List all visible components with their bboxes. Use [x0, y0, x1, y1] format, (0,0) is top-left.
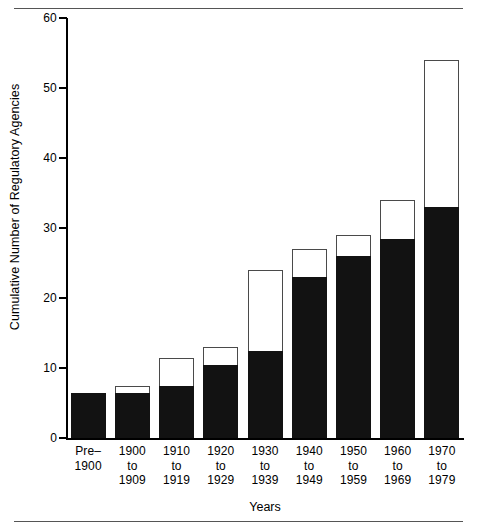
x-axis-title: Years: [66, 500, 464, 514]
y-tick-label-wrap: 10: [0, 362, 57, 374]
top-rule: [14, 8, 463, 9]
y-tick-label: 50: [17, 82, 57, 94]
y-tick-label: 60: [17, 12, 57, 24]
x-label-line: 1970: [416, 444, 468, 459]
y-axis-title: Cumulative Number of Regulatory Agencies: [8, 57, 22, 357]
bar-filled-segment: [203, 365, 238, 439]
bar-filled-segment: [115, 393, 150, 439]
x-label-line: 1979: [416, 473, 468, 488]
x-axis-line: [66, 438, 464, 440]
bar-filled-segment: [424, 207, 459, 438]
bottom-rule: [14, 521, 463, 522]
bar-filled-segment: [292, 277, 327, 438]
y-tick-label: 10: [17, 362, 57, 374]
y-tick-label: 0: [17, 432, 57, 444]
bar-filled-segment: [380, 239, 415, 439]
y-tick-label-wrap: 0: [0, 432, 57, 444]
x-label-line: to: [416, 459, 468, 474]
bar-series: [66, 18, 464, 438]
y-tick-label-wrap: 60: [0, 12, 57, 24]
figure: 0102030405060 Cumulative Number of Regul…: [0, 0, 477, 532]
y-tick-label: 20: [17, 292, 57, 304]
bar-filled-segment: [336, 256, 371, 438]
bar-filled-segment: [71, 393, 106, 439]
y-tick-label: 30: [17, 222, 57, 234]
bar-filled-segment: [159, 386, 194, 439]
y-tick-label: 40: [17, 152, 57, 164]
x-axis-label: 1970to1979: [416, 444, 468, 488]
bar-filled-segment: [248, 351, 283, 439]
x-axis-labels: Pre–19001900to19091910to19191920to192919…: [66, 444, 464, 504]
